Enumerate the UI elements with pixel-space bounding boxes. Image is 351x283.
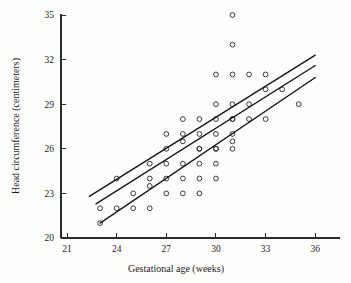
axis-ticks-layer: 202326293235212427303336	[45, 10, 321, 254]
data-point	[180, 191, 185, 196]
data-point	[131, 191, 136, 196]
data-point	[214, 132, 219, 137]
data-point	[147, 206, 152, 211]
y-tick-label: 20	[45, 233, 55, 243]
y-tick-label: 32	[45, 55, 55, 65]
x-axis-title: Gestational age (weeks)	[128, 263, 224, 275]
y-tick-label: 23	[45, 189, 55, 199]
data-point	[263, 72, 268, 77]
x-tick-label: 21	[62, 244, 72, 254]
data-point	[214, 146, 219, 151]
data-point	[180, 176, 185, 181]
data-point	[114, 206, 119, 211]
data-point	[197, 191, 202, 196]
data-point	[214, 102, 219, 107]
data-point	[230, 139, 235, 144]
data-point	[230, 146, 235, 151]
data-point	[247, 72, 252, 77]
data-point	[263, 117, 268, 122]
data-point	[197, 161, 202, 166]
data-point	[147, 176, 152, 181]
x-tick-label: 30	[211, 244, 221, 254]
data-point	[98, 206, 103, 211]
data-point	[197, 146, 202, 151]
y-tick-label: 35	[45, 10, 55, 20]
chart-canvas: 202326293235212427303336 Gestational age…	[0, 0, 351, 283]
data-point	[131, 206, 136, 211]
axes-layer	[61, 14, 340, 238]
regression-line	[96, 66, 315, 204]
data-point	[214, 161, 219, 166]
y-axis-title: Head circumference (centimeters)	[10, 58, 22, 194]
upper-band	[89, 55, 315, 196]
lower-band	[100, 77, 315, 223]
x-tick-label: 27	[162, 244, 172, 254]
data-point	[164, 161, 169, 166]
data-point	[164, 132, 169, 137]
data-point	[197, 132, 202, 137]
data-point	[197, 117, 202, 122]
scatter-plot-figure: 202326293235212427303336 Gestational age…	[0, 0, 351, 283]
regression-lines-layer	[89, 55, 315, 223]
data-point	[197, 176, 202, 181]
data-point	[230, 13, 235, 18]
x-tick-label: 24	[112, 244, 122, 254]
data-point	[296, 102, 301, 107]
x-tick-label: 33	[261, 244, 271, 254]
data-point	[214, 176, 219, 181]
y-tick-label: 29	[45, 100, 55, 110]
data-point	[147, 161, 152, 166]
data-point	[180, 132, 185, 137]
y-tick-label: 26	[45, 144, 55, 154]
data-point	[230, 42, 235, 47]
data-points-layer	[98, 13, 301, 226]
data-point	[164, 191, 169, 196]
data-point	[230, 72, 235, 77]
data-point	[214, 72, 219, 77]
x-tick-label: 36	[311, 244, 321, 254]
data-point	[180, 117, 185, 122]
